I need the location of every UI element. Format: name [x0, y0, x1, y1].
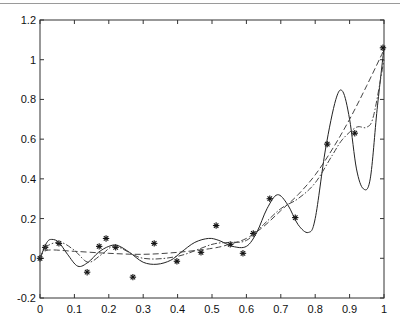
dashdot-fit-line — [40, 60, 384, 263]
data-point-asterisk — [240, 250, 246, 256]
y-tick-label: 1 — [30, 54, 36, 66]
data-point-asterisk — [103, 235, 109, 241]
axes — [40, 20, 384, 298]
data-point-asterisk — [380, 45, 386, 51]
x-tick-label: 0.2 — [101, 303, 116, 315]
y-tick-label: 0.2 — [21, 213, 36, 225]
y-tick-label: 0.8 — [21, 93, 36, 105]
y-tick-label: -0.2 — [17, 292, 36, 304]
x-tick-label: 0.6 — [239, 303, 254, 315]
solid-fit-line — [40, 48, 384, 267]
x-tick-label: 0.3 — [136, 303, 151, 315]
y-tick-label: 0 — [30, 252, 36, 264]
x-tick-label: 0 — [37, 303, 43, 315]
y-tick-label: 0.4 — [21, 173, 36, 185]
plot-frame — [40, 20, 384, 298]
dashed-fit-line — [40, 50, 384, 259]
data-point-asterisk — [174, 258, 180, 264]
data-point-asterisk — [130, 274, 136, 280]
data-point-asterisk — [352, 130, 358, 136]
x-tick-label: 1 — [381, 303, 387, 315]
ticks: 00.10.20.30.40.50.60.70.80.91-0.200.20.4… — [17, 14, 387, 315]
data-point-asterisk — [151, 240, 157, 246]
series-group — [37, 45, 386, 281]
x-tick-label: 0.4 — [170, 303, 185, 315]
data-point-asterisk — [213, 222, 219, 228]
x-tick-label: 0.5 — [204, 303, 219, 315]
x-tick-label: 0.1 — [67, 303, 82, 315]
line-chart: 00.10.20.30.40.50.60.70.80.91-0.200.20.4… — [0, 0, 400, 327]
data-point-asterisk — [84, 269, 90, 275]
x-tick-label: 0.8 — [308, 303, 323, 315]
x-tick-label: 0.7 — [273, 303, 288, 315]
data-point-asterisk — [96, 243, 102, 249]
y-tick-label: 1.2 — [21, 14, 36, 26]
x-tick-label: 0.9 — [342, 303, 357, 315]
y-tick-label: 0.6 — [21, 133, 36, 145]
